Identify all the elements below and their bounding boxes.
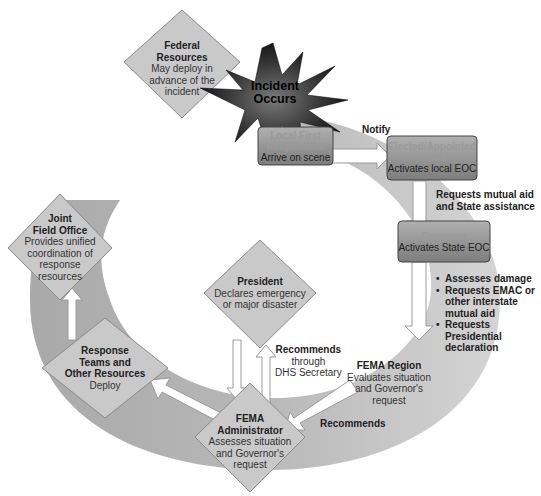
rec-dhs-line2: through xyxy=(275,356,342,368)
jfo-body-4: resources xyxy=(18,271,102,283)
label-notify: Notify xyxy=(362,124,390,136)
label-recommends-through-dhs: Recommends through DHS Secretary xyxy=(275,344,342,379)
jfo-body-2: coordination of xyxy=(18,248,102,260)
action-requests-emac: Requests EMAC or other interstate mutual… xyxy=(436,285,535,320)
response-title-3: Other Resources xyxy=(60,368,150,380)
fema-region-body-2: and Governor's xyxy=(339,383,439,395)
action-assesses-damage: Assesses damage xyxy=(436,273,535,285)
federal-title-1: Federal xyxy=(140,40,224,52)
response-title-2: Teams and xyxy=(60,357,150,369)
federal-body-1: May deploy in xyxy=(140,63,224,75)
fema-admin-body-3: request xyxy=(200,459,300,471)
local-body: Arrive on scene xyxy=(258,152,333,163)
arrow-governor-to-fema-region xyxy=(405,262,433,340)
node-response-teams: Response Teams and Other Resources Deplo… xyxy=(60,345,150,391)
rec-dhs-line1: Recommends xyxy=(275,344,342,356)
action-b2: other interstate xyxy=(445,296,535,308)
label-recommends: Recommends xyxy=(320,418,386,430)
elected-body: Activates local EOC xyxy=(387,163,477,174)
incident-line2: Occurs xyxy=(240,93,310,106)
governor-actions-list: Assesses damage Requests EMAC or other i… xyxy=(436,273,535,354)
incident-occurs-label: Incident Occurs xyxy=(240,80,310,106)
label-requests-mutual-aid: Requests mutual aid and State assistance xyxy=(436,189,535,212)
president-body-1: Declares emergency xyxy=(208,288,312,300)
president-title: President xyxy=(208,276,312,288)
elected-title-1: Elected/Appointed xyxy=(387,141,477,152)
action-c1: Requests xyxy=(445,319,535,331)
response-title-1: Response xyxy=(60,345,150,357)
node-federal-resources: Federal Resources May deploy in advance … xyxy=(140,40,224,98)
federal-body-2: advance of the xyxy=(140,75,224,87)
local-title-1: Local First xyxy=(258,130,333,141)
fema-admin-title-2: Administrator xyxy=(200,425,300,437)
action-requests-declaration: Requests Presidential declaration xyxy=(436,319,535,354)
incident-response-diagram: Incident Occurs Federal Resources May de… xyxy=(0,0,541,496)
node-joint-field-office: Joint Field Office Provides unified coor… xyxy=(18,213,102,282)
elected-title-2: Official xyxy=(387,152,477,163)
fema-admin-body-1: Assesses situation xyxy=(200,436,300,448)
jfo-title-2: Field Office xyxy=(18,225,102,237)
jfo-title-1: Joint xyxy=(18,213,102,225)
response-body: Deploy xyxy=(60,380,150,392)
fema-admin-body-2: and Governor's xyxy=(200,448,300,460)
node-president: President Declares emergency or major di… xyxy=(208,276,312,311)
node-elected-official: Elected/Appointed Official Activates loc… xyxy=(387,141,477,174)
fema-region-body-1: Evaluates situation xyxy=(339,372,439,384)
president-body-2: or major disaster xyxy=(208,299,312,311)
fema-admin-title-1: FEMA xyxy=(200,413,300,425)
action-c3: declaration xyxy=(445,342,535,354)
fema-region-body-3: request xyxy=(339,395,439,407)
mutual-aid-line1: Requests mutual aid xyxy=(436,189,535,201)
jfo-body-1: Provides unified xyxy=(18,236,102,248)
local-title-2: Responders xyxy=(258,141,333,152)
governor-title: Governor xyxy=(398,231,490,242)
action-c2: Presidential xyxy=(445,331,535,343)
jfo-body-3: response xyxy=(18,259,102,271)
action-a1: Assesses damage xyxy=(445,273,532,284)
node-governor: Governor Activates State EOC xyxy=(398,231,490,253)
rec-dhs-line3: DHS Secretary xyxy=(275,367,342,379)
fema-region-title: FEMA Region xyxy=(339,360,439,372)
node-fema-administrator: FEMA Administrator Assesses situation an… xyxy=(200,413,300,471)
action-b3: mutual aid xyxy=(445,308,535,320)
mutual-aid-line2: and State assistance xyxy=(436,201,535,213)
node-fema-region: FEMA Region Evaluates situation and Gove… xyxy=(339,360,439,406)
governor-body: Activates State EOC xyxy=(398,242,490,253)
action-b1: Requests EMAC or xyxy=(445,285,535,297)
federal-title-2: Resources xyxy=(140,52,224,64)
federal-body-3: incident xyxy=(140,86,224,98)
node-local-first-responders: Local First Responders Arrive on scene xyxy=(258,130,333,163)
